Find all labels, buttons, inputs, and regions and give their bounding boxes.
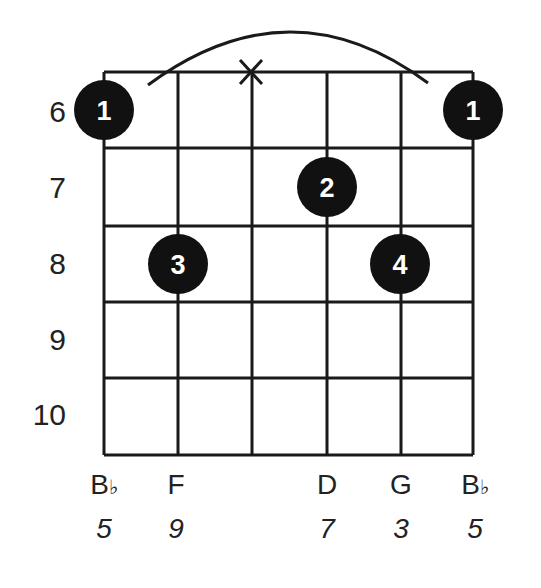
note-letter: F (167, 469, 184, 500)
interval-label: 9 (146, 514, 206, 544)
finger-dot: 1 (74, 80, 134, 140)
note-name: D (297, 470, 357, 500)
note-name: F (146, 470, 206, 500)
fret-label: 7 (16, 173, 66, 203)
note-name: B♭ (445, 470, 505, 502)
interval-label: 5 (74, 514, 134, 544)
note-name: G (371, 470, 431, 500)
note-letter: D (317, 469, 337, 500)
finger-number: 3 (170, 250, 185, 280)
finger-dot: 3 (148, 234, 208, 294)
barre-arc (148, 32, 428, 85)
note-letter: B (461, 469, 480, 500)
interval-label: 7 (297, 514, 357, 544)
fret-label: 8 (16, 249, 66, 279)
fret-label: 9 (16, 325, 66, 355)
finger-dot: 4 (370, 234, 430, 294)
fret-label: 6 (16, 97, 66, 127)
finger-number: 1 (96, 96, 111, 126)
flat-icon: ♭ (480, 476, 489, 498)
interval-label: 3 (371, 514, 431, 544)
flat-icon: ♭ (109, 476, 118, 498)
finger-number: 1 (465, 96, 480, 126)
note-name: B♭ (74, 470, 134, 502)
note-letter: G (390, 469, 412, 500)
finger-dot: 2 (297, 157, 357, 217)
fret-label: 10 (16, 400, 66, 430)
finger-number: 2 (319, 173, 334, 203)
interval-label: 5 (445, 514, 505, 544)
finger-dot: 1 (443, 80, 503, 140)
finger-number: 4 (392, 250, 407, 280)
note-letter: B (90, 469, 109, 500)
